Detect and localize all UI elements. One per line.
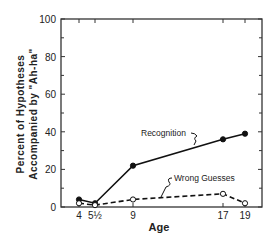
line-chart: 020406080100 45½91719 Percent of Hypothe… (0, 0, 276, 243)
y-tick-label: 20 (45, 164, 57, 175)
x-axis-label: Age (149, 221, 170, 233)
recognition-leader (191, 133, 197, 145)
y-tick-label: 100 (39, 14, 56, 25)
y-tick-label: 40 (45, 127, 57, 138)
labels-layer: Percent of Hypotheses Accompanied by "Ah… (15, 48, 235, 233)
recognition-point (220, 137, 225, 142)
y-tick-label: 0 (50, 202, 56, 213)
recognition-point (130, 163, 135, 168)
x-tick-label: 5½ (88, 210, 103, 221)
x-tick-label: 17 (217, 210, 229, 221)
recognition-point (242, 131, 247, 136)
wrong-guesses-point (92, 203, 97, 208)
wrong-guesses-point (130, 197, 135, 202)
wrong-guesses-leader (161, 178, 172, 197)
y-tick-label: 80 (45, 52, 57, 63)
wrong-guesses-point (220, 191, 225, 196)
y-axis-label-line2: Accompanied by "Ah-ha" (28, 48, 39, 180)
recognition-annotation: Recognition (141, 128, 186, 138)
y-axis: 020406080100 (39, 14, 262, 213)
y-axis-label-line1: Percent of Hypotheses (15, 55, 26, 174)
wrong-guesses-point (76, 201, 81, 206)
x-tick-label: 19 (239, 210, 251, 221)
series-layer (76, 131, 247, 208)
x-tick-label: 4 (76, 210, 82, 221)
y-tick-label: 60 (45, 89, 57, 100)
wrong-guesses-annotation: Wrong Guesses (174, 173, 235, 183)
wrong-guesses-point (242, 201, 247, 206)
x-tick-label: 9 (130, 210, 136, 221)
